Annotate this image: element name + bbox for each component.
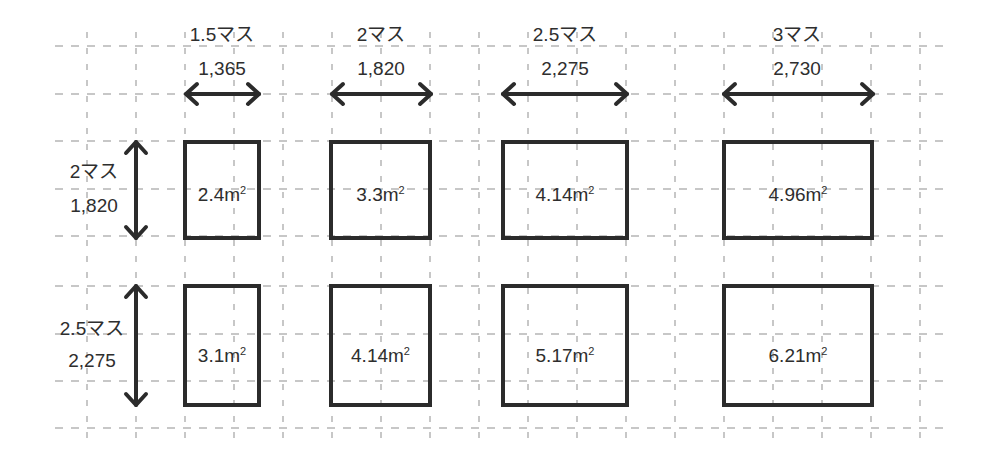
row2-masu-label: 2.5マス (50, 318, 134, 340)
col2-masu-label: 2マス (336, 24, 426, 46)
col2-mm-label: 1,820 (336, 58, 426, 80)
room-area-label: 4.14m2 (329, 340, 432, 367)
width-arrow-col3 (503, 84, 627, 104)
room-area-label: 4.96m2 (722, 179, 874, 206)
row2-mm-label: 2,275 (50, 350, 134, 372)
row1-masu-label: 2マス (56, 161, 132, 183)
col4-masu-label: 3マス (752, 24, 842, 46)
room-area-label: 6.21m2 (722, 340, 874, 367)
col1-mm-label: 1,365 (180, 58, 264, 80)
col1-masu-label: 1.5マス (180, 24, 264, 46)
width-arrow-col4 (724, 84, 873, 104)
height-arrow-row1 (126, 142, 146, 238)
height-arrow-row2 (126, 286, 146, 405)
width-arrow-col1 (186, 84, 259, 104)
room-area-label: 2.4m2 (183, 179, 261, 206)
row1-mm-label: 1,820 (56, 195, 132, 217)
room-area-label: 3.1m2 (183, 340, 261, 367)
room-area-label: 4.14m2 (501, 179, 629, 206)
col3-mm-label: 2,275 (520, 58, 610, 80)
room-size-diagram: 1.5マス 1,365 2マス 1,820 2.5マス 2,275 3マス 2,… (0, 0, 994, 473)
col3-masu-label: 2.5マス (520, 24, 610, 46)
room-area-label: 3.3m2 (329, 179, 432, 206)
room-area-label: 5.17m2 (501, 340, 629, 367)
col4-mm-label: 2,730 (752, 58, 842, 80)
